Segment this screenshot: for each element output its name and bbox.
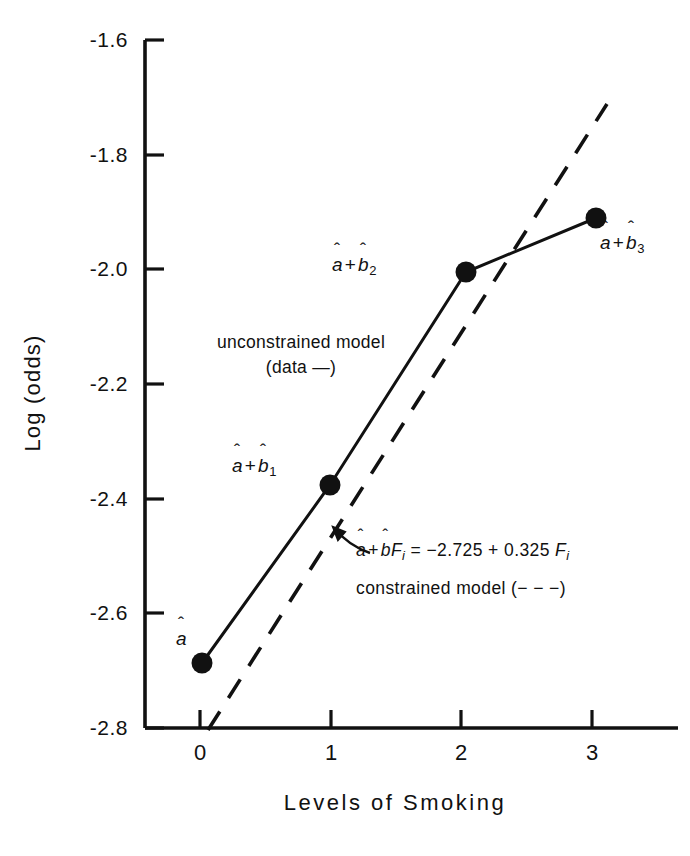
equation-rhs-F: F [555,540,566,560]
constrained-model-equation: a+bFi = −2.725 + 0.325 Fi [356,540,569,563]
equation-plus: + [366,540,381,560]
point-label-2-sub: 2 [369,263,377,278]
x-tick-label-3: 3 [572,740,612,766]
y-tick-label-5: -2.6 [44,601,128,625]
point-label-a-hat-plus-b1: a+b1 [232,455,277,479]
equation-F: F [391,540,402,560]
point-label-a-hat-plus-b2: a+b2 [332,254,377,278]
y-tick-label-1: -1.8 [44,143,128,167]
point-label-3-op: + [611,232,626,253]
point-label-2-b: b [358,254,369,276]
point-label-a-hat-plus-b3: a+b3 [600,232,645,256]
equation-a-hat: a [356,540,366,561]
x-tick-label-0: 0 [180,740,220,766]
point-label-3-b: b [626,232,637,254]
x-tick-marks [200,710,592,728]
y-tick-label-6: -2.8 [44,716,128,740]
y-axis-title: Log (odds) [20,293,46,493]
data-point-2 [456,262,477,283]
unconstrained-model-line2: (data —) [196,355,406,380]
point-label-1-op: + [243,455,258,476]
constrained-model-dashed-line [208,104,607,730]
figure-canvas: -1.6 -1.8 -2.0 -2.2 -2.4 -2.6 -2.8 0 1 2… [0,0,690,856]
x-tick-label-1: 1 [311,740,351,766]
y-tick-label-4: -2.4 [44,487,128,511]
x-tick-label-2: 2 [441,740,481,766]
point-label-1-sub: 1 [269,464,277,479]
equation-rhs: = −2.725 + 0.325 [411,540,550,560]
point-label-1-a: a [232,455,243,477]
data-point-0 [192,653,213,674]
constrained-model-annotation: constrained model (− − −) [356,578,566,599]
y-tick-marks [145,40,164,728]
y-tick-label-2: -2.0 [44,257,128,281]
data-point-markers [192,208,607,674]
y-tick-label-0: -1.6 [44,28,128,52]
point-label-3-a: a [600,232,611,254]
point-label-a-hat: a [176,628,187,650]
unconstrained-model-annotation: unconstrained model (data —) [196,330,406,381]
point-label-1-b: b [258,455,269,477]
point-label-3-sub: 3 [637,241,645,256]
point-label-2-op: + [343,254,358,275]
point-label-0-a: a [176,628,187,650]
equation-rhs-F-subscript: i [566,548,569,563]
equation-b-hat: b [381,540,391,561]
y-tick-label-3: -2.2 [44,372,128,396]
point-label-2-a: a [332,254,343,276]
x-axis-title: Levels of Smoking [145,790,645,816]
data-point-1 [320,475,341,496]
unconstrained-model-line1: unconstrained model [196,330,406,355]
